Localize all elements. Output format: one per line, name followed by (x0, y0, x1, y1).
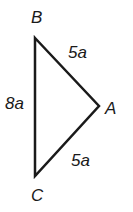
vertex-label-b: B (31, 8, 42, 27)
vertex-label-a: A (104, 99, 116, 118)
side-label-ba: 5a (68, 43, 87, 62)
side-label-bc: 8a (5, 94, 24, 113)
vertex-label-c: C (31, 186, 44, 205)
side-label-ac: 5a (71, 151, 90, 170)
triangle-diagram: B A C 5a 8a 5a (0, 0, 133, 212)
